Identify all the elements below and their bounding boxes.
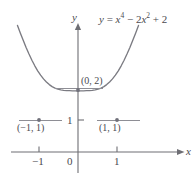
plot-canvas [0, 0, 196, 181]
equation-operator-1: − [127, 13, 133, 25]
equation-term1-exponent: 4 [121, 11, 125, 20]
equation-operator-2: + [153, 13, 159, 25]
y-axis-arrowhead [75, 23, 81, 30]
equation-term3: 2 [162, 13, 168, 25]
x-axis-label: x [186, 146, 191, 157]
local-min-left-label: (−1, 1) [17, 123, 44, 133]
equation-label: y = x4 − 2x2 + 2 [99, 14, 167, 25]
y-axis-label: y [72, 12, 77, 23]
x-tick-label-0: 0 [67, 156, 73, 167]
point-marker-local-max [76, 88, 80, 92]
y-axis [75, 23, 84, 173]
function-graph-figure: y x y = x4 − 2x2 + 2 (0, 2) (−1, 1) (1, … [0, 0, 196, 181]
equation-lhs: y [99, 13, 104, 25]
x-tick-label-neg1: −1 [32, 156, 44, 167]
equation-relation: = [107, 13, 113, 25]
x-tick-label-1: 1 [114, 156, 120, 167]
y-tick-label-1: 1 [67, 115, 73, 126]
local-max-label: (0, 2) [81, 76, 103, 86]
x-axis [11, 147, 185, 156]
x-axis-arrowhead [177, 149, 185, 155]
local-min-right-label: (1, 1) [99, 123, 121, 133]
equation-term2-exponent: 2 [146, 11, 150, 20]
